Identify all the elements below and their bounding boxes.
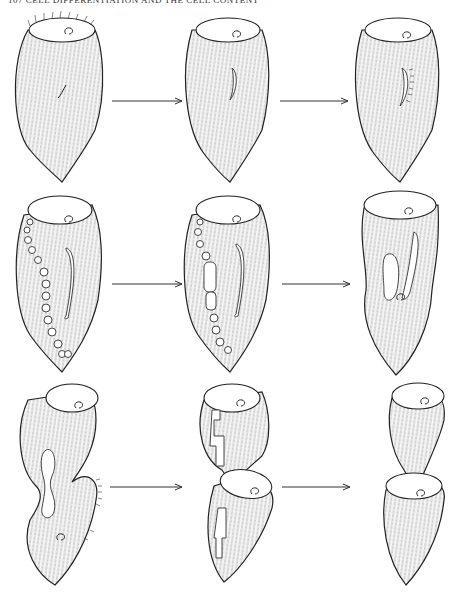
- cell-row1-panel1: [15, 11, 102, 182]
- cell-row2-panel1: [16, 196, 101, 372]
- cell-row1-panel2: [186, 18, 269, 182]
- cell-row2-panel3: [362, 191, 438, 375]
- cell-row3-panel1: [20, 384, 102, 585]
- cell-row3-panel3: [384, 383, 445, 585]
- stentor-division-figure: [0, 0, 463, 597]
- cell-row1-panel3: [356, 18, 439, 182]
- cell-row2-panel2: [184, 196, 269, 372]
- cell-row3-panel2: [200, 384, 274, 582]
